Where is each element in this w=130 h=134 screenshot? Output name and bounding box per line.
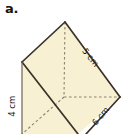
geometry-figure-container: a. 5 cm 6 cm 4 cm [0,0,130,134]
height-dimension-label: 4 cm [8,96,17,117]
pyramid-diagram-svg [0,0,130,134]
